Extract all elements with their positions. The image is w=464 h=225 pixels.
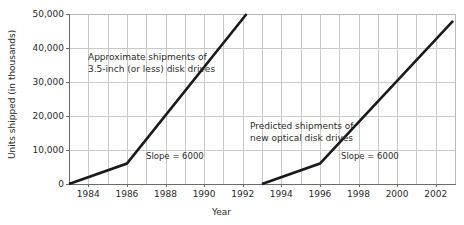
chart-figure: 010,00020,00030,00040,00050,000 19841986… [0, 0, 464, 225]
slope-label-1: Slope = 6000 [146, 152, 204, 161]
series-1-annotation-line2: 3.5-inch (or less) disk drives [88, 64, 215, 76]
series-2-annotation: Predicted shipments of new optical disk … [250, 121, 353, 144]
slope-label-2: Slope = 6000 [341, 152, 399, 161]
y-tick-label-50000: 50,000 [8, 10, 64, 19]
y-axis-title: Units shipped (in thousands) [8, 30, 17, 159]
x-axis-title: Year [212, 208, 231, 217]
tick-marks [66, 15, 437, 188]
series-2-annotation-line1: Predicted shipments of [250, 121, 353, 133]
x-tick-label-2002: 2002 [411, 190, 461, 199]
series-1-annotation: Approximate shipments of 3.5-inch (or le… [88, 52, 215, 75]
series-2-annotation-line2: new optical disk drives [250, 133, 353, 145]
series-1-annotation-line1: Approximate shipments of [88, 52, 215, 64]
y-tick-label-0: 0 [8, 180, 64, 189]
